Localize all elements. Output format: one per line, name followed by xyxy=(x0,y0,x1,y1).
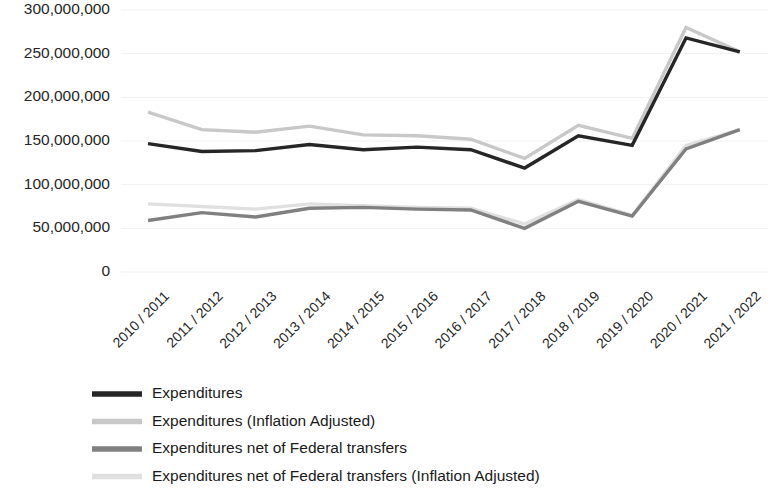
chart-canvas: 300,000,000250,000,000200,000,000150,000… xyxy=(0,0,773,488)
x-axis-tick-label: 2021 / 2022 xyxy=(700,288,764,352)
legend-label: Expenditures xyxy=(152,384,243,401)
legend-label: Expenditures net of Federal transfers (I… xyxy=(152,467,540,484)
x-axis-tick-labels: 2010 / 20112011 / 20122012 / 20132013 / … xyxy=(109,288,764,352)
y-axis-tick-label: 100,000,000 xyxy=(24,175,111,192)
y-axis-tick-label: 300,000,000 xyxy=(24,0,111,17)
y-axis-tick-label: 200,000,000 xyxy=(24,87,111,104)
series-line xyxy=(148,130,740,229)
line-chart: 300,000,000250,000,000200,000,000150,000… xyxy=(0,0,773,488)
y-axis-tick-label: 50,000,000 xyxy=(32,218,110,235)
series-line xyxy=(148,27,740,158)
legend-label: Expenditures net of Federal transfers xyxy=(152,439,407,456)
x-axis-tick-label: 2010 / 2011 xyxy=(109,288,172,351)
y-axis-tick-labels: 300,000,000250,000,000200,000,000150,000… xyxy=(24,0,111,279)
gridlines xyxy=(121,10,768,272)
legend-label: Expenditures (Inflation Adjusted) xyxy=(152,412,375,429)
y-axis-tick-label: 0 xyxy=(101,262,110,279)
series-lines xyxy=(148,27,740,228)
chart-legend: ExpendituresExpenditures (Inflation Adju… xyxy=(92,384,540,484)
y-axis-tick-label: 250,000,000 xyxy=(24,44,111,61)
y-axis-tick-label: 150,000,000 xyxy=(24,131,111,148)
